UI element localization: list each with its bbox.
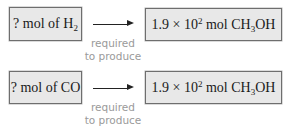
arrow-icon — [93, 83, 134, 93]
unknown-co-box: ? mol of CO — [9, 71, 82, 104]
methanol-moles-box: 1.9 × 102 mol CH3OH — [145, 8, 282, 41]
arrow-caption: required to produce — [83, 37, 143, 63]
unknown-h2-box: ? mol of H2 — [9, 7, 82, 41]
methanol-quantity: 1.9 × 102 mol CH3OH — [152, 17, 276, 33]
arrow-caption: required to produce — [83, 101, 143, 127]
methanol-moles-box: 1.9 × 102 mol CH3OH — [145, 71, 282, 104]
h2-label: ? mol of H2 — [13, 16, 78, 32]
co-label: ? mol of CO — [11, 80, 81, 96]
arrow-icon — [93, 19, 134, 29]
methanol-quantity: 1.9 × 102 mol CH3OH — [152, 80, 276, 96]
